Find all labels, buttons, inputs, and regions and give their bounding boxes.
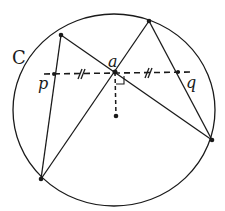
dashed-perpendicular [115,72,116,116]
label-circle-c: C [12,49,26,67]
point-q [176,70,180,74]
butterfly-diagram: C a p q [0,0,225,211]
chord-topright-right [149,21,212,140]
circle-c [13,14,215,206]
diagram-canvas [0,0,225,211]
label-a: a [108,54,118,70]
chord-topright-bottomleft [41,21,149,179]
point-right [210,138,215,143]
point-bottom-left [39,177,44,182]
point-top-right [147,19,152,24]
point-center [114,114,119,119]
label-p: p [38,76,48,92]
point-top-left [59,33,64,38]
point-p [52,72,56,76]
label-q: q [186,75,196,91]
dashed-chord-pq [44,72,192,74]
chord-topleft-bottomleft [41,35,61,179]
